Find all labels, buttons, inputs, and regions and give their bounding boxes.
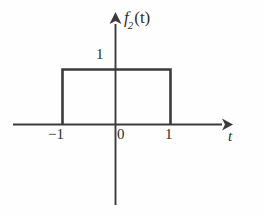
- x-axis-variable-label: t: [228, 129, 232, 144]
- pulse-waveform: [63, 70, 171, 125]
- function-argument: (t): [134, 8, 150, 27]
- y-axis: [110, 12, 122, 205]
- y-axis-arrow-icon: [110, 12, 122, 24]
- plot-canvas: [0, 0, 264, 215]
- figure-container: f2(t) 1 −1 0 1 t: [0, 0, 264, 215]
- y-value-label: 1: [96, 47, 104, 62]
- x-tick-label-neg-one: −1: [48, 127, 64, 142]
- function-subscript: 2: [128, 19, 134, 31]
- function-label: f2(t): [124, 9, 150, 29]
- x-tick-label-one: 1: [165, 127, 173, 142]
- x-tick-label-zero: 0: [117, 127, 125, 142]
